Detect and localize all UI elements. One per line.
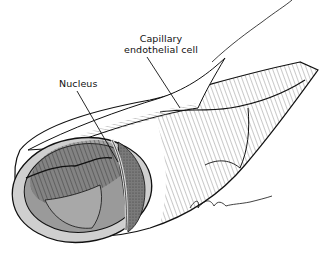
strand-line (212, 0, 292, 62)
label-line: Nucleus (59, 78, 98, 89)
label-capillary-endothelial-cell: Capillary endothelial cell (124, 33, 198, 55)
label-line: endothelial cell (124, 44, 198, 55)
capillary-diagram: Capillary endothelial cell Nucleus (0, 0, 325, 261)
label-nucleus: Nucleus (59, 78, 98, 89)
label-line: Capillary (124, 33, 198, 44)
